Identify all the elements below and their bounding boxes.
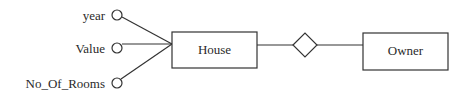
er-diagram: year Value No_Of_Rooms House Owner <box>0 0 470 102</box>
entity-label-house: House <box>198 42 231 57</box>
attribute-value: Value <box>75 41 122 56</box>
attribute-year: year <box>83 8 122 23</box>
relationship-owns <box>293 33 317 57</box>
connector-no-of-rooms <box>121 44 172 79</box>
entity-house: House <box>172 32 257 68</box>
connector-year <box>122 17 172 44</box>
attribute-label-no-of-rooms: No_Of_Rooms <box>26 76 105 91</box>
attribute-label-year: year <box>83 8 106 23</box>
attribute-circle-icon <box>112 43 122 53</box>
attribute-circle-icon <box>112 10 122 20</box>
attribute-connectors <box>121 17 172 79</box>
attribute-label-value: Value <box>75 41 105 56</box>
entity-owner: Owner <box>363 33 448 70</box>
attribute-no-of-rooms: No_Of_Rooms <box>26 76 122 91</box>
entity-label-owner: Owner <box>388 43 424 58</box>
relationship-diamond-icon <box>293 33 317 57</box>
attribute-circle-icon <box>112 78 122 88</box>
